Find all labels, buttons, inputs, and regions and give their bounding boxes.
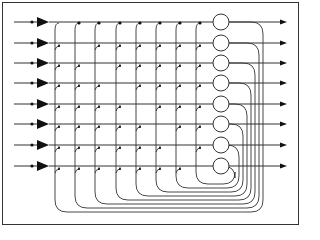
synapse-dot [159,168,161,170]
synapse-connector [196,105,200,111]
synapse-dot [139,65,141,67]
synapse-connector [95,84,99,90]
synapse-connector [55,167,59,173]
synapse-dot [78,147,80,149]
synapse-connector [176,167,180,173]
synapse-connector [176,64,180,70]
synapse-connector [196,64,200,70]
synapse-connector [116,105,120,111]
synapse-dot [119,126,121,128]
input-node-dot [30,122,33,125]
synapse-dot [119,168,121,170]
synapse-dot [98,147,100,149]
synapse-connector [95,146,99,152]
synapse-dot [159,106,161,108]
synapse-dot [179,126,181,128]
input-node-dot [30,143,33,146]
neuron-circle [213,116,229,132]
synapse-dot [199,147,201,149]
output-arrow-icon [280,20,287,25]
synapse-dot [98,45,100,47]
synapse-dot [58,126,60,128]
synapse-dot [58,85,60,87]
synapse-connector [156,146,160,152]
synapse-connector [75,146,79,152]
synapse-connector [116,125,120,131]
synapse-dot [179,168,181,170]
input-node-dot [30,20,33,23]
feedback-line-5 [136,30,247,196]
synapse-dot [139,45,141,47]
synapse-dot [97,21,100,24]
synapse-dot [119,106,121,108]
synapse-connector [55,105,59,111]
synapse-connector [176,125,180,131]
synapse-dot [179,65,181,67]
output-arrow-icon [280,81,287,86]
synapse-dot [78,168,80,170]
synapse-dot [78,65,80,67]
synapse-dot [139,168,141,170]
synapse-dot [98,126,100,128]
synapse-connector [55,125,59,131]
synapse-dot [199,65,201,67]
synapse-dot [78,85,80,87]
synapse-dot [98,85,100,87]
synapse-connector [55,84,59,90]
synapse-dot [58,45,60,47]
input-node-dot [30,61,33,64]
synapse-dot [119,147,121,149]
amplifier-triangle-icon [37,161,49,171]
synapse-connector [136,125,140,131]
synapse-dot [179,45,181,47]
synapse-connector [156,167,160,173]
synapse-dot [58,168,60,170]
synapse-connector [75,64,79,70]
synapse-dot [139,147,141,149]
synapse-dot [98,168,100,170]
neuron-circle [213,96,229,112]
synapse-dot [199,106,201,108]
synapse-connector [95,167,99,173]
input-node-dot [30,81,33,84]
synapse-dot [199,126,201,128]
synapse-connector [176,105,180,111]
synapse-dot [138,21,141,24]
synapse-connector [75,105,79,111]
column-hook [55,23,59,30]
synapse-dot [78,126,80,128]
synapse-dot [159,45,161,47]
synapse-connector [136,84,140,90]
synapse-connector [95,125,99,131]
synapse-connector [176,44,180,50]
synapse-dot [118,21,121,24]
synapse-dot [199,45,201,47]
amplifier-triangle-icon [37,119,49,129]
output-arrow-icon [280,61,287,66]
synapse-dot [58,147,60,149]
synapse-connector [116,167,120,173]
output-arrow-icon [280,164,287,169]
synapse-connector [116,64,120,70]
amplifier-triangle-icon [37,78,49,88]
synapse-dot [199,85,201,87]
synapse-connector [196,84,200,90]
synapse-connector [75,167,79,173]
synapse-dot [159,85,161,87]
synapse-connector [156,84,160,90]
synapse-dot [139,126,141,128]
synapse-connector [136,44,140,50]
feedback-line-1 [55,22,263,212]
feedback-line-7 [176,30,239,188]
output-arrow-icon [280,102,287,107]
synapse-connector [196,44,200,50]
synapse-connector [116,44,120,50]
synapse-connector [136,146,140,152]
synapse-connector [55,146,59,152]
amplifier-triangle-icon [37,99,49,109]
neuron-circle [213,137,229,153]
synapse-connector [156,105,160,111]
synapse-connector [116,146,120,152]
synapse-dot [58,106,60,108]
amplifier-triangle-icon [37,58,49,68]
